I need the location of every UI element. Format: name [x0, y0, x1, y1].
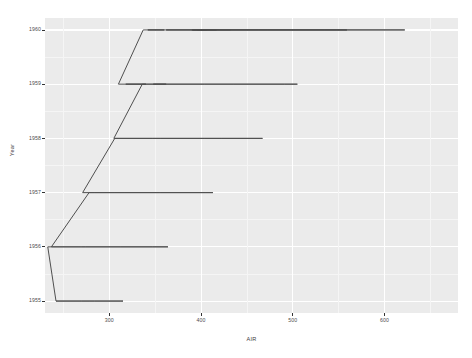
x-axis-title: AIR	[45, 336, 458, 342]
x-tick-mark	[109, 313, 110, 315]
x-tick-mark	[384, 313, 385, 315]
x-tick-label: 600	[370, 318, 400, 323]
x-tick-mark	[201, 313, 202, 315]
x-tick-mark	[292, 313, 293, 315]
x-axis-ticks: 300400500600	[0, 0, 472, 358]
x-tick-label: 500	[278, 318, 308, 323]
x-tick-label: 400	[186, 318, 216, 323]
x-tick-label: 300	[94, 318, 124, 323]
chart-root: 195519561957195819591960 300400500600 Ye…	[0, 0, 472, 358]
y-axis-title: Year	[9, 144, 15, 156]
